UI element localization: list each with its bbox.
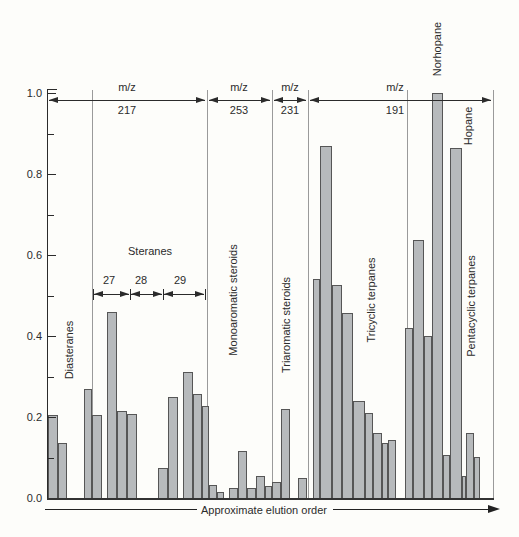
bar-steranes xyxy=(127,414,137,498)
bar-monoaromatic-steroids xyxy=(238,451,247,498)
mz-number: 217 xyxy=(118,104,136,116)
mz-arrow-line xyxy=(310,100,491,101)
x-baseline xyxy=(47,498,494,500)
group-label-triaromatic-steroids: Triaromatic steroids xyxy=(280,277,292,373)
group-label-hopane: Hopane xyxy=(462,107,474,146)
y-minor-tick xyxy=(48,458,54,459)
bar-pentacyclic-terpanes xyxy=(424,336,432,498)
sterane-arrow-arrowhead-right xyxy=(153,291,162,297)
bar-steranes xyxy=(168,397,178,498)
group-label-steranes: Steranes xyxy=(128,245,172,257)
bottom-arrow-line-right xyxy=(333,509,490,510)
y-axis-top-cap xyxy=(47,89,57,90)
sterane-arrow-arrowhead-left xyxy=(94,291,103,297)
mz-label: m/z xyxy=(281,81,299,93)
sterane-scale-tick xyxy=(205,289,206,300)
y-tick-label: 0.0 xyxy=(12,493,42,504)
mz-arrow-arrowhead-right xyxy=(261,97,270,103)
mz-arrow-arrowhead-left xyxy=(209,97,218,103)
bar-monoaromatic-steroids xyxy=(256,476,265,498)
bar-pentacyclic-terpanes xyxy=(466,433,474,498)
bar-tricyclic-terpanes xyxy=(313,279,320,498)
bar-monoaromatic-steroids xyxy=(209,485,217,498)
y-tick-label: 0.2 xyxy=(12,412,42,423)
bar-steranes xyxy=(84,389,92,498)
bar-triaromatic-steroids xyxy=(298,478,307,498)
y-tick-label: 0.6 xyxy=(12,250,42,261)
y-tick-label: 0.8 xyxy=(12,169,42,180)
sterane-carbon-label: 27 xyxy=(103,274,115,286)
bottom-axis-caption: Approximate elution order xyxy=(201,504,327,516)
bar-tricyclic-terpanes xyxy=(388,440,396,498)
bar-steranes xyxy=(158,468,168,498)
mz-number: 231 xyxy=(281,104,299,116)
bar-monoaromatic-steroids xyxy=(229,488,238,498)
sterane-scale-tick xyxy=(130,289,131,300)
bar-steranes xyxy=(183,372,193,498)
y-minor-tick xyxy=(48,134,54,135)
y-tick-label: 0.4 xyxy=(12,331,42,342)
bar-steranes xyxy=(202,406,209,498)
group-label-tricyclic-terpanes: Tricyclic terpanes xyxy=(365,257,377,342)
y-minor-tick xyxy=(48,377,54,378)
region-divider-line xyxy=(493,90,494,498)
y-major-tick xyxy=(48,93,56,94)
sterane-carbon-label: 28 xyxy=(135,274,147,286)
mz-arrow-line xyxy=(49,100,205,101)
y-major-tick xyxy=(48,336,56,337)
mz-arrow-arrowhead-right xyxy=(482,97,491,103)
bar-pentacyclic-terpanes xyxy=(474,457,480,498)
mz-arrow-arrowhead-right xyxy=(297,97,306,103)
mz-arrow-arrowhead-left xyxy=(49,97,58,103)
elution-order-chart: Approximate elution order 1.00.80.60.40.… xyxy=(0,0,519,537)
bar-pentacyclic-terpanes xyxy=(432,93,443,498)
bar-tricyclic-terpanes xyxy=(373,433,382,498)
bar-steranes xyxy=(92,415,102,498)
mz-arrow-arrowhead-left xyxy=(310,97,319,103)
sterane-arrow-arrowhead-right xyxy=(120,291,129,297)
sterane-arrow-arrowhead-right xyxy=(195,291,204,297)
group-label-pentacyclic-terpanes: Pentacyclic terpanes xyxy=(465,255,477,357)
bar-steranes xyxy=(117,411,127,498)
bar-steranes xyxy=(107,312,117,498)
bar-triaromatic-steroids xyxy=(281,409,290,498)
sterane-carbon-label: 29 xyxy=(174,274,186,286)
bar-triaromatic-steroids xyxy=(272,482,281,498)
bar-tricyclic-terpanes xyxy=(342,313,353,498)
bar-monoaromatic-steroids xyxy=(265,486,272,498)
mz-label: m/z xyxy=(118,81,136,93)
sterane-arrow-arrowhead-left xyxy=(164,291,173,297)
sterane-scale-tick xyxy=(163,289,164,300)
bar-pentacyclic-terpanes xyxy=(405,328,413,498)
group-label-monoaromatic-steroids: Monoaromatic steroids xyxy=(227,244,239,355)
sterane-arrow-arrowhead-left xyxy=(131,291,140,297)
group-label-norhopane: Norhopane xyxy=(431,22,443,76)
bar-pentacyclic-terpanes xyxy=(450,148,462,498)
y-major-tick xyxy=(48,174,56,175)
y-major-tick xyxy=(48,255,56,256)
bar-diasteranes xyxy=(58,443,67,498)
bar-tricyclic-terpanes xyxy=(353,401,365,498)
bar-pentacyclic-terpanes xyxy=(443,455,450,498)
mz-number: 191 xyxy=(386,104,404,116)
mz-label: m/z xyxy=(386,81,404,93)
region-divider-line xyxy=(308,90,309,498)
y-tick-label: 1.0 xyxy=(12,88,42,99)
mz-label: m/z xyxy=(230,81,248,93)
mz-arrow-arrowhead-right xyxy=(196,97,205,103)
bar-tricyclic-terpanes xyxy=(365,413,373,498)
region-divider-line xyxy=(272,90,273,498)
y-minor-tick xyxy=(48,215,54,216)
y-major-tick xyxy=(48,417,56,418)
y-axis-line xyxy=(47,89,48,499)
bar-monoaromatic-steroids xyxy=(247,488,256,498)
mz-number: 253 xyxy=(230,104,248,116)
bar-pentacyclic-terpanes xyxy=(413,240,424,498)
group-label-diasteranes: Diasteranes xyxy=(63,321,75,380)
bar-tricyclic-terpanes xyxy=(320,146,332,498)
bottom-arrowhead-right-icon xyxy=(488,505,500,513)
bar-diasteranes xyxy=(48,415,58,498)
sterane-scale-tick xyxy=(93,289,94,300)
bottom-arrow-line-left xyxy=(45,509,197,510)
bar-steranes xyxy=(193,394,202,498)
